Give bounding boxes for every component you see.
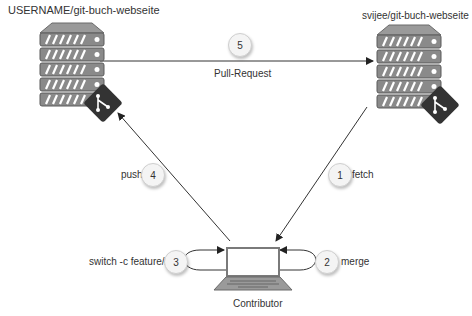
step-4-badge: 4	[141, 163, 165, 187]
step-3-badge: 3	[164, 250, 188, 274]
step-1-badge: 1	[328, 163, 352, 187]
step-5-label: Pull-Request	[214, 68, 271, 79]
step-2-label: merge	[341, 256, 369, 267]
step-5-badge: 5	[228, 33, 252, 57]
step-3-label: switch -c feature/x	[89, 256, 170, 267]
step-2-badge: 2	[315, 250, 339, 274]
contributor-label: Contributor	[233, 298, 282, 309]
step-1-label: fetch	[352, 169, 374, 180]
origin-repo-label: USERNAME/git-buch-webseite	[8, 4, 160, 16]
upstream-repo-label: svijee/git-buch-webseite	[362, 10, 469, 21]
step-4-label: push	[121, 169, 143, 180]
